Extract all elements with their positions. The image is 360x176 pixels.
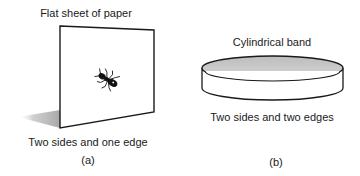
figure-canvas (0, 0, 360, 176)
panel-b-label: (b) (269, 156, 282, 169)
flat-sheet-group (18, 26, 154, 128)
panel-b-title: Cylindrical band (233, 36, 311, 49)
cylindrical-band-group (202, 56, 343, 100)
panel-b-caption: Two sides and two edges (210, 111, 334, 124)
panel-a-caption: Two sides and one edge (28, 136, 147, 149)
panel-a-label: (a) (81, 154, 94, 167)
panel-a-title: Flat sheet of paper (40, 7, 132, 20)
sheet-shadow (18, 110, 60, 128)
